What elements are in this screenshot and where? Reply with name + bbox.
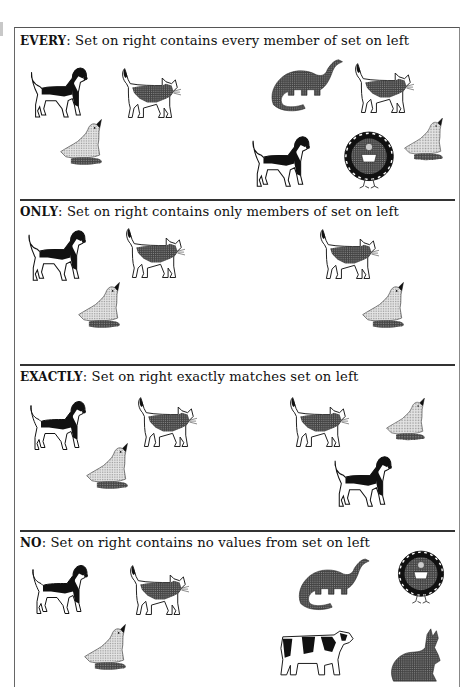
left-dog (27, 64, 89, 120)
left-duck (83, 621, 139, 677)
description-every: : Set on right contains every member of … (66, 33, 409, 48)
keyword-every: EVERY (20, 34, 66, 48)
set-comparison-figure: EVERY: Set on right contains every membe… (14, 27, 460, 687)
caption-only: ONLY: Set on right contains only members… (20, 204, 399, 219)
keyword-only: ONLY (20, 205, 58, 219)
left-dog (25, 226, 87, 284)
page-edge-mark (0, 22, 3, 36)
right-duck (361, 278, 417, 336)
left-cat (119, 66, 181, 122)
right-dog (331, 451, 393, 511)
left-cat (127, 561, 189, 621)
left-cat (123, 224, 185, 284)
left-dog (27, 397, 87, 453)
caption-every: EVERY: Set on right contains every membe… (20, 33, 409, 48)
right-cat (352, 60, 414, 118)
right-dinosaur (269, 58, 345, 114)
left-dog (29, 561, 89, 617)
keyword-exactly: EXACTLY (20, 370, 83, 384)
divider-3 (20, 530, 455, 532)
right-cat (317, 224, 379, 286)
right-cow (279, 629, 355, 677)
divider-1 (20, 199, 455, 201)
right-dinosaur (297, 557, 371, 613)
caption-exactly: EXACTLY: Set on right exactly matches se… (20, 369, 358, 384)
right-dog (249, 132, 311, 190)
left-duck (85, 439, 141, 497)
caption-no: NO: Set on right contains no values from… (20, 535, 370, 550)
right-rabbit (383, 627, 445, 683)
left-cat (135, 393, 197, 453)
right-duck (385, 395, 437, 447)
right-cat (287, 393, 349, 453)
description-no: : Set on right contains no values from s… (42, 535, 370, 550)
right-turkey (395, 549, 447, 607)
right-duck (403, 116, 455, 166)
right-turkey (341, 130, 397, 192)
divider-2 (20, 364, 455, 366)
left-duck (59, 118, 115, 170)
description-exactly: : Set on right exactly matches set on le… (83, 369, 359, 384)
left-duck (77, 278, 133, 336)
keyword-no: NO (20, 536, 42, 550)
description-only: : Set on right contains only members of … (58, 204, 399, 219)
